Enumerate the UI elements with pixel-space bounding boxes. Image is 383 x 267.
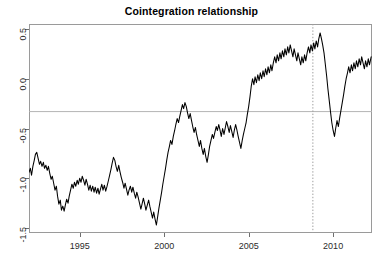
y-tick-label: -1.5 <box>18 227 28 245</box>
page-title: Cointegration relationship <box>0 5 383 17</box>
series-cointegration-residual <box>29 33 371 225</box>
plot-area <box>29 24 372 233</box>
x-tick-label: 2000 <box>154 241 174 251</box>
cointegration-line-chart <box>29 24 372 233</box>
x-tick-label: 2010 <box>323 241 343 251</box>
y-tick-label: -0.5 <box>18 128 28 146</box>
x-tick-mark <box>80 233 81 237</box>
y-tick-label: -1.0 <box>18 177 28 195</box>
x-tick-label: 1995 <box>70 241 90 251</box>
chart-figure: Cointegration relationship 0.50.0-0.5-1.… <box>0 0 383 267</box>
x-tick-mark <box>249 233 250 237</box>
y-tick-label: 0.5 <box>18 28 28 46</box>
x-tick-label: 2005 <box>239 241 259 251</box>
y-tick-label: 0.0 <box>18 78 28 96</box>
x-tick-mark <box>333 233 334 237</box>
x-tick-mark <box>164 233 165 237</box>
